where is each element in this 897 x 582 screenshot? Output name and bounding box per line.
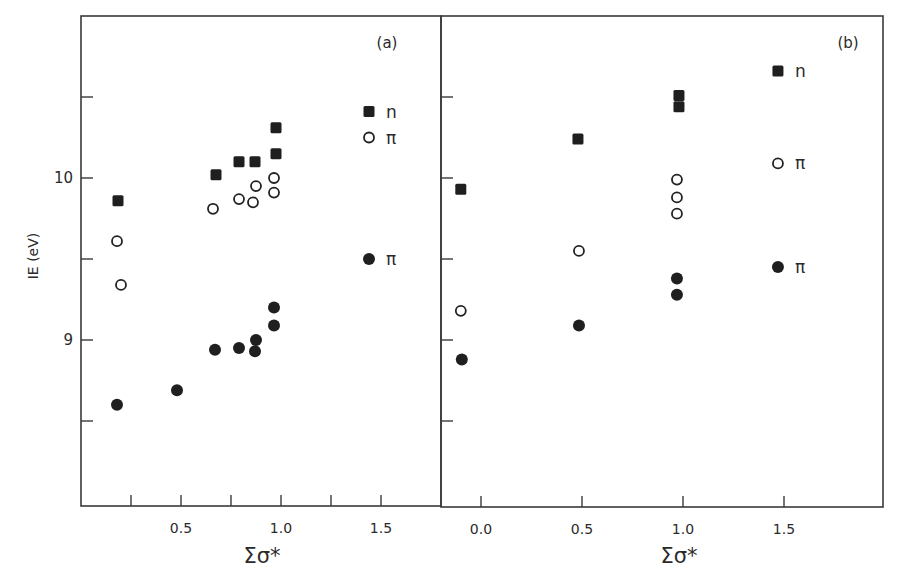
legend: nππnππ <box>363 61 806 277</box>
scatter-plot: 0.51.01.59100.00.51.01.5 nππnππ (a) (b) … <box>0 0 897 582</box>
data-point-square-marker <box>113 195 124 206</box>
legend-open-circle-marker <box>364 133 374 143</box>
data-point-filled-circle-marker <box>249 345 261 357</box>
data-point-open-circle-marker <box>248 197 258 207</box>
data-point-filled-circle-marker <box>671 272 683 284</box>
y-tick-label: 9 <box>63 331 73 349</box>
x-tick-label: 0.5 <box>170 520 192 536</box>
data-point-square-marker <box>250 156 261 167</box>
ie-vs-sigma-figure: 0.51.01.59100.00.51.01.5 nππnππ (a) (b) … <box>0 0 897 582</box>
data-points <box>111 90 684 411</box>
legend-label: π <box>386 128 396 148</box>
x-tick-label: 1.0 <box>672 521 694 537</box>
legend-label: n <box>795 61 806 81</box>
x-tick-label: 1.0 <box>270 520 292 536</box>
data-point-open-circle-marker <box>269 173 279 183</box>
data-point-filled-circle-marker <box>671 289 683 301</box>
data-point-open-circle-marker <box>672 192 682 202</box>
legend-label: n <box>386 102 397 122</box>
legend-open-circle-marker <box>773 158 783 168</box>
data-point-open-circle-marker <box>456 306 466 316</box>
panel-b-frame <box>441 16 883 507</box>
legend-label: π <box>386 249 396 269</box>
x-tick-label: 0.0 <box>470 521 492 537</box>
data-point-square-marker <box>271 148 282 159</box>
x-tick-label: 1.5 <box>773 521 795 537</box>
x-tick-label: 1.5 <box>370 520 392 536</box>
legend-square-marker <box>364 106 375 117</box>
data-point-open-circle-marker <box>574 246 584 256</box>
y-tick-label: 10 <box>54 169 73 187</box>
legend-label: π <box>795 153 805 173</box>
data-point-filled-circle-marker <box>573 319 585 331</box>
legend-square-marker <box>772 66 783 77</box>
panel-a-label: (a) <box>377 34 398 52</box>
data-point-square-marker <box>455 184 466 195</box>
data-point-filled-circle-marker <box>268 302 280 314</box>
panel-b-label: (b) <box>837 34 858 52</box>
data-point-filled-circle-marker <box>171 384 183 396</box>
data-point-open-circle-marker <box>208 204 218 214</box>
data-point-open-circle-marker <box>672 209 682 219</box>
x-tick-label: 0.5 <box>571 521 593 537</box>
data-point-open-circle-marker <box>234 194 244 204</box>
data-point-open-circle-marker <box>116 280 126 290</box>
data-point-square-marker <box>211 169 222 180</box>
data-point-open-circle-marker <box>251 181 261 191</box>
axis-ticks <box>81 97 784 507</box>
data-point-filled-circle-marker <box>233 342 245 354</box>
data-point-filled-circle-marker <box>250 334 262 346</box>
legend-label: π <box>795 257 805 277</box>
data-point-open-circle-marker <box>112 236 122 246</box>
axis-tick-labels: 0.51.01.59100.00.51.01.5 <box>54 169 795 537</box>
legend-filled-circle-marker <box>363 253 375 265</box>
data-point-filled-circle-marker <box>268 319 280 331</box>
data-point-square-marker <box>673 101 684 112</box>
data-point-filled-circle-marker <box>456 353 468 365</box>
data-point-square-marker <box>572 134 583 145</box>
data-point-square-marker <box>673 90 684 101</box>
data-point-open-circle-marker <box>672 175 682 185</box>
x-axis-label-b: Σσ* <box>660 544 697 568</box>
x-axis-label-a: Σσ* <box>243 544 280 568</box>
data-point-square-marker <box>271 122 282 133</box>
data-point-square-marker <box>234 156 245 167</box>
legend-filled-circle-marker <box>772 261 784 273</box>
y-axis-label: IE (eV) <box>25 233 41 280</box>
data-point-filled-circle-marker <box>209 344 221 356</box>
data-point-open-circle-marker <box>269 188 279 198</box>
data-point-filled-circle-marker <box>111 399 123 411</box>
